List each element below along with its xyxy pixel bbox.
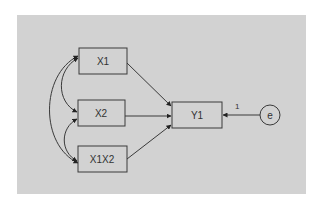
node-x2[interactable]: X2: [78, 100, 125, 126]
node-x1x2[interactable]: X1X2: [78, 146, 127, 172]
path-e-y1-label: 1: [235, 102, 240, 111]
node-x1[interactable]: X1: [79, 48, 127, 74]
node-y1[interactable]: Y1: [172, 102, 222, 128]
diagram-background: [17, 15, 306, 194]
node-x1-label: X1: [97, 56, 110, 67]
node-y1-label: Y1: [191, 110, 204, 121]
node-x1x2-label: X1X2: [90, 154, 115, 165]
path-diagram: 1 X1 X2 X1X2 Y1 e: [0, 0, 322, 206]
node-e-error[interactable]: e: [260, 105, 280, 125]
node-e-label: e: [267, 110, 273, 121]
node-x2-label: X2: [95, 108, 108, 119]
